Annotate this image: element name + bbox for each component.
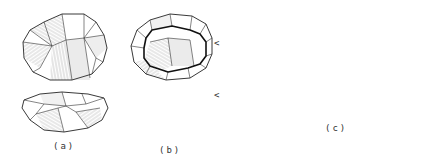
panel-a-label: (a)	[53, 141, 75, 151]
panel-a-top-view	[23, 14, 107, 80]
panel-a-side-view	[22, 92, 108, 132]
illustration-svg	[0, 0, 438, 164]
panel-c-label: (c)	[325, 123, 347, 133]
panel-b-top-arrow-marker: <	[214, 38, 219, 48]
panel-b-label: (b)	[159, 145, 181, 155]
lithic-illustration-figure: (a) (b) (c) < <	[0, 0, 438, 164]
panel-b-top-view	[131, 14, 212, 80]
panel-b-side-arrow-marker: <	[214, 90, 219, 100]
